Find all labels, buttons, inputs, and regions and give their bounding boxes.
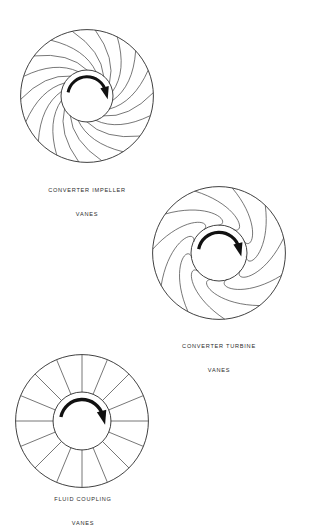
vane-line [38,91,61,140]
caption-line-1: CONVERTER IMPELLER [12,186,162,194]
vane-line [70,116,101,161]
caption-line-2: VANES [8,519,158,527]
converter-turbine-drawing [152,186,286,320]
vane-line [24,67,78,76]
figure-converter-impeller [20,29,154,163]
vane-line [34,55,87,70]
caption-line-2: VANES [144,366,294,374]
caption-converter-impeller: CONVERTER IMPELLER VANES [12,170,162,234]
vane-line [96,116,150,125]
vane-line [72,31,103,76]
vane-line [93,360,107,394]
figure-converter-turbine [152,186,286,320]
vane-line [113,51,136,100]
vane-line [35,374,61,400]
vane-line [53,101,62,155]
vane-line [161,236,194,285]
vane-line [21,432,55,446]
vane-line [109,396,143,410]
vane-line [110,70,149,109]
vane-line [26,83,65,122]
vane-line [109,432,143,446]
vane-line [179,254,191,312]
vane-line [21,396,55,410]
vane-line [206,279,259,305]
fluid-coupling-drawing [15,354,149,488]
vane-line [35,442,61,468]
vane-line [246,206,266,262]
vane-line [103,374,129,400]
vane-line [57,360,71,394]
vane-line [103,442,129,468]
caption-line-1: FLUID COUPLING [8,495,158,503]
vane-line [93,448,107,482]
caption-fluid-coupling: FLUID COUPLING VANES [8,479,158,529]
vane-line [113,37,122,91]
caption-line-1: CONVERTER TURBINE [144,342,294,350]
caption-line-2: VANES [12,210,162,218]
vane-line [166,210,223,226]
vane-line [57,448,71,482]
figure-fluid-coupling [15,354,149,488]
vane-line [87,122,140,137]
converter-impeller-drawing [20,29,154,163]
caption-converter-turbine: CONVERTER TURBINE VANES [144,326,294,390]
